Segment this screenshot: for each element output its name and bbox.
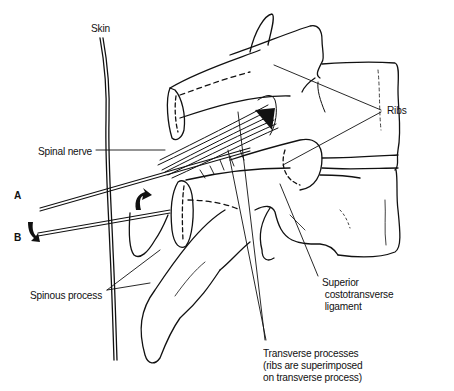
curved-arrows bbox=[28, 188, 152, 242]
label-ribs: Ribs bbox=[387, 104, 407, 116]
label-spinous-process: Spinous process bbox=[30, 289, 102, 301]
illustration bbox=[0, 0, 454, 391]
spine-anatomy-figure: Skin Ribs Spinal nerve A B Spinous proce… bbox=[0, 0, 454, 391]
middle-rib bbox=[230, 139, 398, 190]
label-superior-costotransverse-ligament: Superior costotransverse ligament bbox=[322, 276, 393, 312]
label-line: ligament bbox=[322, 300, 393, 312]
label-needle-a: A bbox=[14, 189, 21, 201]
label-transverse-processes: Transverse processes (ribs are superimpo… bbox=[263, 347, 362, 383]
label-spinal-nerve: Spinal nerve bbox=[38, 145, 92, 157]
upper-rib bbox=[167, 50, 260, 140]
needles bbox=[38, 148, 250, 236]
label-line: (ribs are superimposed bbox=[263, 359, 362, 371]
spinal-nerve bbox=[158, 95, 278, 178]
label-line: Superior bbox=[322, 276, 393, 288]
spinous-process bbox=[129, 210, 250, 363]
skin-line bbox=[100, 38, 117, 360]
label-line: costotransverse bbox=[322, 288, 393, 300]
label-line: Transverse processes bbox=[263, 347, 362, 359]
label-skin: Skin bbox=[91, 22, 110, 34]
label-needle-b: B bbox=[14, 231, 21, 243]
lower-vertebra bbox=[255, 170, 400, 260]
upper-vertebra bbox=[180, 14, 400, 170]
label-line: on transverse process) bbox=[263, 371, 362, 383]
